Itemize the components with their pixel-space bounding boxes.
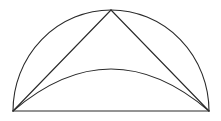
semicircle-arc [13,10,209,111]
inner-arc [13,69,209,111]
triangle-left-side [13,10,111,111]
diagram-canvas [0,0,221,121]
triangle-right-side [111,10,209,111]
